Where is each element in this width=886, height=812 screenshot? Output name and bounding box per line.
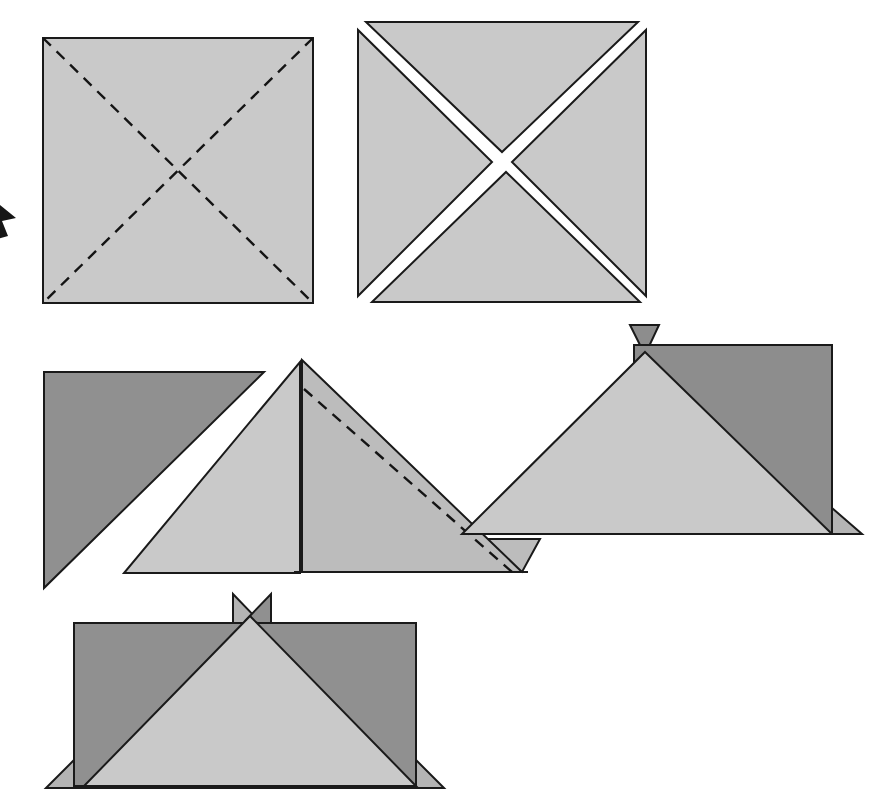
step-4-group [46,594,444,788]
paper-folding-diagram [0,0,886,812]
step-1-group [43,38,313,303]
diagram-canvas [0,0,886,812]
step-1-square-sheet [43,38,313,303]
